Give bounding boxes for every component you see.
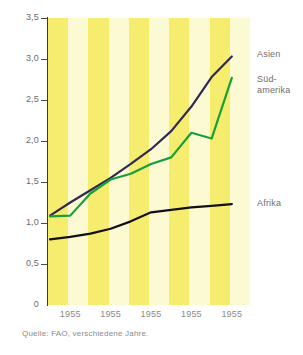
y-axis-tick xyxy=(41,182,47,183)
series-line-sdamerika xyxy=(50,78,232,217)
y-axis-tick-label: 3,5 xyxy=(5,12,39,22)
x-axis-tick-label: 1955 xyxy=(91,309,131,319)
y-axis-tick-label: 3,0 xyxy=(5,53,39,63)
series-lines xyxy=(48,18,250,305)
y-axis-tick-label: 1,0 xyxy=(5,217,39,227)
x-axis-tick-label: 1955 xyxy=(212,309,252,319)
y-axis-tick-label: 0,5 xyxy=(5,258,39,268)
y-axis-tick-label: 1,5 xyxy=(5,176,39,186)
y-axis-tick xyxy=(41,18,47,19)
y-axis-tick-label: 0 xyxy=(5,299,39,309)
x-axis-tick-label: 1955 xyxy=(131,309,171,319)
y-axis-tick xyxy=(41,141,47,142)
source-note: Quelle: FAO, verschiedene Jahre. xyxy=(22,329,148,338)
x-axis-tick-label: 1955 xyxy=(50,309,90,319)
series-label-afrika: Afrika xyxy=(257,198,281,209)
x-axis-tick-label: 1955 xyxy=(171,309,211,319)
plot-area xyxy=(48,18,250,305)
series-label-asien: Asien xyxy=(257,49,281,60)
y-axis-tick-label: 2,5 xyxy=(5,94,39,104)
y-axis-tick xyxy=(41,100,47,101)
series-label-suedamerika: Süd- amerika xyxy=(257,74,290,96)
y-axis-tick-label: 2,0 xyxy=(5,135,39,145)
y-axis-tick xyxy=(41,223,47,224)
y-axis-line xyxy=(47,17,48,306)
y-axis-tick xyxy=(41,264,47,265)
y-axis-tick xyxy=(41,59,47,60)
chart-figure: 00,51,01,52,02,53,03,5 19551955195519551… xyxy=(0,0,303,355)
series-label-suedamerika-line1: Süd- xyxy=(257,74,277,84)
series-label-suedamerika-line2: amerika xyxy=(257,85,290,95)
